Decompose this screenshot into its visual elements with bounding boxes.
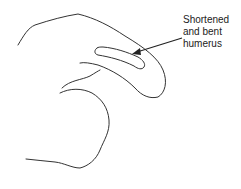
body-outline	[26, 89, 109, 168]
humerus-annotation: Shortened and bent humerus	[183, 14, 229, 50]
annotation-line-1: Shortened	[183, 14, 229, 26]
pointer-arrow	[132, 38, 182, 55]
arm-outline	[18, 14, 165, 98]
forearm-line	[62, 70, 100, 88]
annotation-line-2: and bent	[183, 26, 229, 38]
annotation-line-3: humerus	[183, 38, 229, 50]
